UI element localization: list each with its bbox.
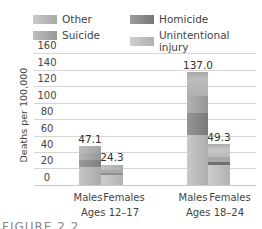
bar-females-18-24 — [208, 144, 230, 185]
figure-caption: FIGURE 2.2 — [2, 220, 79, 229]
legend-swatch-unintentional-injury — [130, 37, 154, 46]
x-label-males: Males — [177, 192, 209, 203]
y-tick: 40 — [34, 139, 60, 150]
seg-other — [187, 72, 208, 96]
y-tick: 120 — [34, 73, 60, 84]
x-axis-line — [34, 185, 256, 186]
x-label-males: Males — [72, 192, 104, 203]
legend-item-homicide: Homicide — [130, 13, 208, 25]
legend-swatch-other — [33, 15, 57, 24]
legend-swatch-homicide — [130, 15, 154, 24]
group-label-ages-12-17: Ages 12–17 — [70, 207, 150, 218]
gridline — [34, 119, 256, 120]
bar-value-label: 47.1 — [70, 133, 110, 145]
seg-unintentional-injury — [208, 165, 230, 185]
x-label-females: Females — [208, 192, 252, 203]
legend-item-other: Other — [33, 13, 92, 25]
group-label-ages-18-24: Ages 18–24 — [175, 207, 255, 218]
y-axis-title: Deaths per 100,000 — [18, 73, 29, 163]
legend-label-homicide: Homicide — [159, 13, 208, 25]
bar-value-label: 24.3 — [92, 151, 132, 163]
seg-suicide — [187, 96, 208, 113]
gridline — [34, 53, 256, 54]
legend-item-unintentional-injury: Unintentional injury — [130, 29, 262, 53]
y-tick: 0 — [34, 172, 60, 183]
bar-value-label: 49.3 — [199, 131, 239, 143]
seg-other — [208, 144, 230, 157]
legend-label-other: Other — [62, 13, 92, 25]
y-tick: 100 — [34, 90, 60, 101]
seg-unintentional-injury — [79, 167, 101, 185]
y-tick: 140 — [34, 57, 60, 68]
y-tick: 80 — [34, 106, 60, 117]
legend-swatch-suicide — [33, 31, 57, 40]
bar-females-12-17 — [101, 165, 123, 185]
y-tick: 20 — [34, 155, 60, 166]
bar-males-18-24 — [187, 72, 208, 185]
gridline — [34, 103, 256, 104]
chart-legend: Other Homicide Suicide Unintentional inj… — [0, 0, 262, 40]
seg-unintentional-injury — [101, 175, 123, 185]
bar-value-label: 137.0 — [178, 59, 218, 71]
legend-label-unintentional-injury: Unintentional injury — [159, 29, 262, 53]
legend-label-suicide: Suicide — [62, 29, 100, 41]
x-label-females: Females — [102, 192, 146, 203]
y-tick: 60 — [34, 123, 60, 134]
gridline — [34, 70, 256, 71]
y-tick: 160 — [34, 40, 60, 51]
gridline — [34, 86, 256, 87]
